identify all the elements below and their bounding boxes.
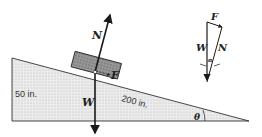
triangle-label-f: F (210, 11, 219, 22)
contact-point (93, 70, 96, 73)
inclined-plane-diagram: F N W 50 in. 200 in. θ F W N α (0, 0, 262, 137)
triangle-label-n: N (217, 42, 228, 53)
triangle-label-alpha: α (208, 56, 213, 63)
label-w: W (82, 96, 96, 109)
incline-wedge (12, 58, 249, 121)
force-triangle: F W N α (196, 11, 228, 82)
label-theta: θ (194, 112, 200, 122)
label-n: N (91, 29, 103, 42)
label-f: F (110, 69, 120, 82)
triangle-label-w: W (196, 42, 209, 53)
height-dimension: 50 in. (15, 89, 37, 99)
